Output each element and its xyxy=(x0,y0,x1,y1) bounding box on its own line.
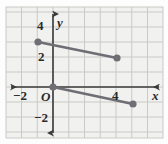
y-tick-label-neg2: −2 xyxy=(34,111,48,124)
point-marker-lower-right xyxy=(129,100,136,107)
origin-label: O xyxy=(41,90,50,103)
segment-lower xyxy=(53,87,133,104)
x-tick-label-neg2: −2 xyxy=(13,89,27,102)
graph-figure: 4 2 −2 −2 4 O y x xyxy=(0,0,168,144)
segment-upper xyxy=(38,42,117,58)
point-marker-origin xyxy=(49,83,56,90)
point-marker-upper-right xyxy=(113,54,120,61)
point-marker-upper-left xyxy=(34,38,41,45)
coordinate-plane-svg xyxy=(0,0,168,144)
x-tick-label-4: 4 xyxy=(112,89,119,102)
y-tick-label-4: 4 xyxy=(37,19,44,32)
y-axis-label: y xyxy=(57,16,63,29)
y-tick-label-2: 2 xyxy=(38,50,45,63)
x-axis-label: x xyxy=(152,89,159,102)
